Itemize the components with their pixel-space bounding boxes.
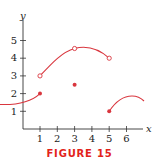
svg-text:2: 2 xyxy=(11,88,17,99)
chart-plot: 1 2 3 4 5 6 1 2 3 4 5 x y xyxy=(0,0,159,166)
svg-text:4: 4 xyxy=(11,52,17,63)
y-axis-label: y xyxy=(19,10,26,21)
svg-text:1: 1 xyxy=(11,106,17,117)
svg-text:5: 5 xyxy=(106,133,112,144)
svg-text:3: 3 xyxy=(11,70,17,81)
svg-text:5: 5 xyxy=(11,35,17,46)
curve-piece-2 xyxy=(40,47,109,76)
open-point-1-3 xyxy=(38,74,42,78)
x-tick-labels: 1 2 3 4 5 6 xyxy=(37,133,130,144)
svg-text:3: 3 xyxy=(71,133,77,144)
isolated-point-3-2.5 xyxy=(73,83,77,87)
svg-text:6: 6 xyxy=(123,133,129,144)
svg-text:4: 4 xyxy=(89,133,95,144)
closed-point-5-1 xyxy=(107,109,111,113)
open-point-3-4.5 xyxy=(73,46,77,50)
closed-point-1-2 xyxy=(38,92,42,96)
svg-text:1: 1 xyxy=(37,133,43,144)
curve-piece-3 xyxy=(109,96,144,111)
x-axis-label: x xyxy=(146,123,152,134)
svg-text:2: 2 xyxy=(54,133,60,144)
figure-caption: FIGURE 15 xyxy=(0,148,159,159)
open-point-5-4 xyxy=(107,56,111,60)
curve-piece-1 xyxy=(0,94,40,105)
